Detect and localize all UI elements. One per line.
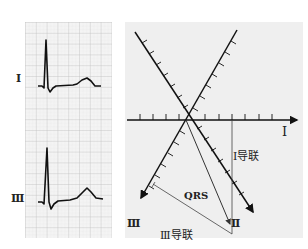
hexaxial-axis-diagram: [125, 22, 303, 238]
lead-iii-projection-label: Ⅲ导联: [160, 226, 193, 242]
lead-iii-label: Ⅲ: [11, 192, 24, 205]
ecg-grid: [25, 22, 112, 238]
lead-i-label: Ⅰ: [16, 72, 21, 85]
axis-diagram-svg: [125, 22, 303, 238]
qrs-vector-label: QRS: [184, 190, 208, 201]
lead-i-projection-label: Ⅰ导联: [233, 147, 259, 163]
axis-label-ii: Ⅱ: [231, 217, 240, 230]
axis-label-iii: Ⅲ: [127, 217, 140, 230]
ecg-strip-panel: [25, 22, 112, 238]
axis-label-i: Ⅰ: [282, 124, 287, 139]
